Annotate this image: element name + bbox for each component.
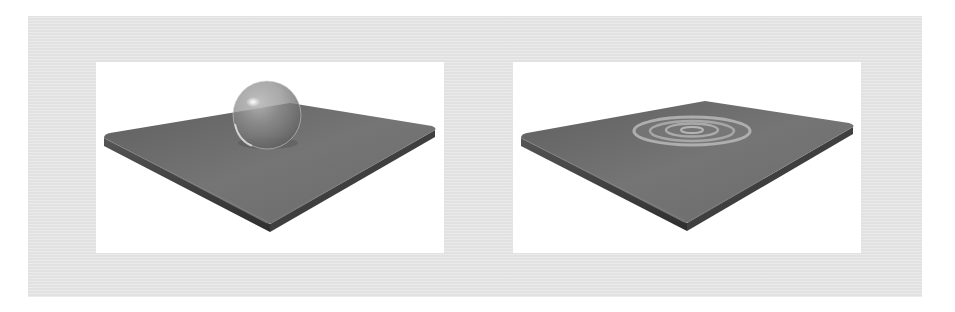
ripple-scene bbox=[513, 62, 861, 253]
panel-ripples-on-slab: Concentric ripples on slab surface bbox=[513, 62, 861, 253]
sphere-scene bbox=[96, 62, 444, 253]
glass-sphere bbox=[233, 81, 301, 149]
specular-highlight bbox=[246, 97, 260, 107]
ripples bbox=[632, 116, 752, 146]
panel-sphere-on-slab: Glass sphere resting on slab bbox=[96, 62, 444, 253]
